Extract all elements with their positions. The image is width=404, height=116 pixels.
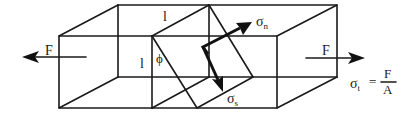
svg-text:A: A [383, 82, 393, 97]
label-force-left: F [45, 43, 53, 58]
label-force-right: F [322, 43, 330, 58]
label-sigma-s: σs [227, 91, 239, 108]
force-arrow-right [306, 52, 365, 64]
sigma-s-arrow [203, 47, 223, 92]
svg-text:σt: σt [350, 76, 361, 93]
tensile-stress-formula: σt = F A [350, 66, 396, 97]
edge-top-right [277, 5, 337, 36]
edge-bottom-right [277, 77, 337, 108]
inclined-plane [152, 5, 253, 108]
plane-front-diagonal [152, 36, 197, 108]
edge-bottom-left [59, 77, 118, 108]
label-length-top: l [163, 9, 167, 24]
edge-top-left [59, 5, 118, 36]
plane-bottom-edge [197, 77, 253, 108]
section-top-edge [152, 5, 209, 36]
bar-box [59, 5, 337, 108]
back-face-top-right [118, 5, 337, 77]
front-face [59, 36, 277, 108]
sigma-n-arrow [203, 22, 252, 54]
stress-diagram: F F l l ϕ σn σs σt = F A [0, 0, 404, 116]
svg-text:=: = [369, 74, 376, 89]
label-sigma-n: σn [256, 14, 269, 31]
label-angle-phi: ϕ [156, 51, 163, 66]
label-length-side: l [140, 56, 144, 71]
svg-text:F: F [384, 66, 391, 81]
force-arrow-left [22, 51, 86, 63]
